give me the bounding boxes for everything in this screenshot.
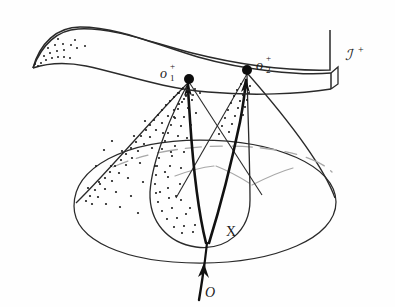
observer-1-label-sup: + — [170, 61, 175, 71]
scri-plus-label-sup: + — [358, 44, 364, 55]
observer-2-label-sub: 2 — [266, 65, 271, 75]
figure-root: ℐ + o 1 + o 2 + X O — [0, 0, 395, 307]
observer-2-point — [242, 65, 252, 75]
observer-1-label-base: o — [160, 66, 167, 81]
diagram-background — [0, 0, 395, 307]
observer-2-label-base: o — [256, 58, 263, 73]
observer-1-label-sub: 1 — [170, 73, 175, 83]
observer-2-label-sup: + — [266, 53, 271, 63]
event-x-label: X — [226, 224, 236, 239]
spacetime-diagram: ℐ + o 1 + o 2 + X O — [0, 0, 395, 307]
origin-o-label: O — [205, 285, 215, 300]
observer-1-point — [184, 74, 194, 84]
